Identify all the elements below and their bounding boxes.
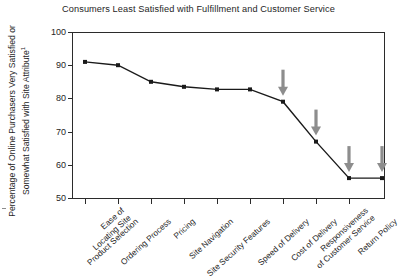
margin-artifact bbox=[2, 208, 6, 209]
x-label-site-security-features: Site Security Features bbox=[198, 217, 273, 280]
x-tick-mark-0 bbox=[85, 199, 86, 204]
y-tick-mark-70 bbox=[68, 132, 72, 133]
y-tick-label-80: 80 bbox=[40, 93, 66, 103]
y-axis-title: Percentage of Online Purchasers Very Sat… bbox=[7, 12, 33, 230]
x-label-line: Site Security Features bbox=[198, 217, 273, 280]
chart-title: Consumers Least Satisfied with Fulfillme… bbox=[0, 4, 397, 14]
plot-area bbox=[72, 32, 385, 199]
y-tick-label-70: 70 bbox=[40, 127, 66, 137]
x-label-line: Responsiveness bbox=[286, 206, 370, 280]
x-tick-mark-3 bbox=[184, 199, 185, 204]
x-tick-mark-7 bbox=[316, 199, 317, 204]
y-axis-title-line-1: Percentage of Online Purchasers Very Sat… bbox=[7, 12, 18, 230]
x-tick-mark-1 bbox=[118, 199, 119, 204]
y-tick-label-90: 90 bbox=[40, 60, 66, 70]
y-tick-mark-100 bbox=[68, 32, 72, 33]
y-tick-mark-80 bbox=[68, 98, 72, 99]
y-tick-mark-50 bbox=[68, 198, 72, 199]
y-tick-mark-90 bbox=[68, 65, 72, 66]
y-tick-label-50: 50 bbox=[40, 193, 66, 203]
y-axis-footnote-marker: 1 bbox=[20, 47, 26, 50]
x-tick-mark-6 bbox=[283, 199, 284, 204]
y-tick-label-100: 100 bbox=[40, 27, 66, 37]
y-tick-label-60: 60 bbox=[40, 160, 66, 170]
y-tick-mark-60 bbox=[68, 165, 72, 166]
x-tick-mark-8 bbox=[349, 199, 350, 204]
x-tick-mark-5 bbox=[250, 199, 251, 204]
y-axis-title-line-2-text: Somewhat Satisfied with Site Attribute bbox=[21, 50, 31, 195]
x-tick-mark-4 bbox=[217, 199, 218, 204]
y-axis-title-line-2: Somewhat Satisfied with Site Attribute1 bbox=[18, 12, 32, 230]
x-tick-mark-2 bbox=[151, 199, 152, 204]
